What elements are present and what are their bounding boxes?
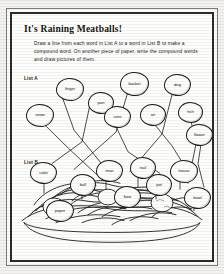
word-ball-label: man <box>106 169 114 173</box>
word-ball-label: ball <box>80 183 86 187</box>
word-ball-house[interactable]: house <box>170 160 198 183</box>
word-ball-label: bowl <box>193 196 201 200</box>
word-ball-label: pan <box>98 101 105 105</box>
word-ball-label: pot <box>156 183 162 187</box>
word-ball-flower[interactable]: flower <box>186 124 213 146</box>
word-ball-label: flower <box>194 133 205 137</box>
word-ball-ball[interactable]: ball <box>70 174 96 196</box>
word-ball-label: air <box>151 113 156 117</box>
word-ball-label: paper <box>55 209 65 213</box>
word-ball-label: nail <box>140 166 146 170</box>
word-ball-basket[interactable]: basket <box>120 72 149 96</box>
word-ball-label: bow <box>124 195 132 199</box>
word-ball-label: dog <box>174 83 181 87</box>
word-ball-air[interactable]: air <box>140 104 166 126</box>
word-ball-dog[interactable]: dog <box>164 74 191 96</box>
word-ball-label: cake <box>39 171 48 175</box>
word-ball-bow[interactable]: bow <box>114 186 141 208</box>
page-inner-border: It's Raining Meatballs! Draw a line from… <box>10 12 214 262</box>
word-ball-pot[interactable]: pot <box>146 174 172 196</box>
word-ball-label: finger <box>65 88 75 92</box>
word-ball-fish[interactable]: fish <box>178 102 203 123</box>
word-ball-label: basket <box>128 82 140 86</box>
word-ball-label: fish <box>187 111 193 115</box>
word-ball-label: corn <box>114 115 122 119</box>
connector-lines <box>12 14 212 260</box>
word-ball-label: house <box>178 170 189 174</box>
word-ball-man[interactable]: man <box>96 160 123 182</box>
word-ball-cake[interactable]: cake <box>30 162 57 184</box>
word-ball-corn[interactable]: corn <box>104 106 131 128</box>
word-ball-bowl[interactable]: bowl <box>184 187 211 209</box>
word-ball-label: snow <box>35 114 45 118</box>
worksheet-page: It's Raining Meatballs! Draw a line from… <box>0 0 224 274</box>
word-ball-snow[interactable]: snow <box>26 104 54 127</box>
word-ball-paper[interactable]: paper <box>46 200 74 222</box>
word-ball-finger[interactable]: finger <box>56 78 84 101</box>
